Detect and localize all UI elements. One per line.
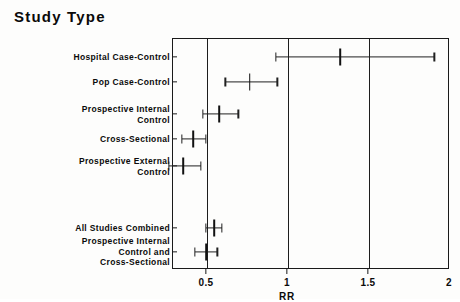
category-label-text: Cross-Sectional [0,134,170,145]
category-label-7: Prospective Internal Control and Cross-S… [0,236,170,268]
point-estimate-1 [340,49,342,66]
ci-cap-4-low [181,135,182,144]
ci-cap-5-low [168,162,169,171]
category-label-text: Prospective External Control [0,156,170,177]
category-label-text: Hospital Case-Control [0,52,170,63]
y-tick-stub-3 [172,113,177,114]
ci-cap-1-high [434,53,435,62]
ci-cap-4-high [205,135,206,144]
ci-line-2 [225,81,277,82]
point-estimate-7 [205,244,207,261]
ci-cap-7-low [194,248,195,257]
ci-line-4 [182,138,206,139]
y-tick-stub-7 [172,251,177,252]
x-tick-label-0.5: 0.5 [198,277,213,288]
y-tick-stub-2 [172,81,177,82]
x-tick-label-1: 1 [284,277,290,288]
category-label-text: Prospective Internal Control and Cross-S… [0,236,170,268]
point-estimate-2 [249,74,251,91]
x-tick-1 [286,269,287,274]
x-tick-label-2: 2 [446,277,452,288]
x-tick-label-1.5: 1.5 [360,277,375,288]
page-title: Study Type [14,8,106,25]
ci-cap-3-low [202,110,203,119]
ci-cap-2-high [277,78,278,87]
ci-cap-7-high [217,248,218,257]
category-label-2: Pop Case-Control [0,77,170,88]
ci-cap-6-low [205,224,206,233]
ci-cap-3-high [238,110,239,119]
gridline-0-5 [207,39,208,268]
y-tick-stub-1 [172,56,177,57]
point-estimate-6 [213,220,215,237]
ci-cap-6-high [222,224,223,233]
category-label-3: Prospective Internal Control [0,104,170,125]
category-label-text: Prospective Internal Control [0,104,170,125]
category-label-text: All Studies Combined [0,223,170,234]
point-estimate-5 [183,158,185,175]
ci-line-3 [203,113,239,114]
ci-cap-2-low [225,78,226,87]
x-tick-1.5 [367,269,368,274]
category-label-5: Prospective External Control [0,156,170,177]
x-axis-title: RR [279,291,295,302]
ci-line-5 [169,165,201,166]
category-label-4: Cross-Sectional [0,134,170,145]
category-label-1: Hospital Case-Control [0,52,170,63]
point-estimate-4 [192,131,194,148]
ci-cap-1-low [275,53,276,62]
y-tick-stub-6 [172,227,177,228]
y-tick-stub-4 [172,138,177,139]
ci-line-1 [276,56,435,57]
gridline-1 [288,39,289,268]
ci-cap-5-high [200,162,201,171]
x-tick-0.5 [205,269,206,274]
category-label-text: Pop Case-Control [0,77,170,88]
gridline-1-5 [369,39,370,268]
point-estimate-3 [218,106,220,123]
category-label-6: All Studies Combined [0,223,170,234]
